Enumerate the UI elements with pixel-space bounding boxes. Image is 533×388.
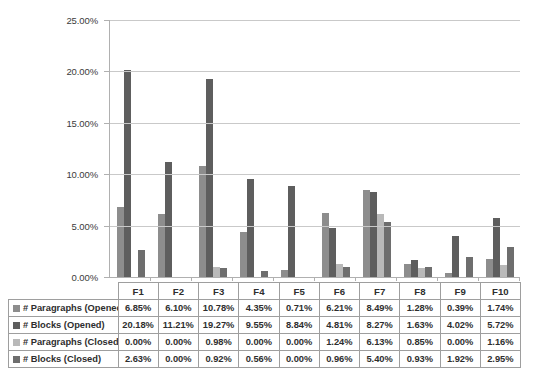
bar-group-f5	[274, 20, 315, 277]
bar-group-f4	[233, 20, 274, 277]
gridline	[110, 226, 520, 227]
bar-group-f1	[110, 20, 151, 277]
bar	[240, 232, 247, 277]
legend-swatch-icon	[13, 356, 20, 363]
table-cell: 0.00%	[158, 334, 198, 351]
chart-container: 0.00%5.00%10.00%15.00%20.00%25.00% F1F2F…	[0, 0, 533, 388]
table-cell: 0.56%	[239, 351, 279, 368]
legend-item-0: # Paragraphs (Opened)	[9, 300, 119, 317]
legend-swatch-icon	[13, 322, 20, 329]
bar	[377, 214, 384, 277]
gridline	[110, 71, 520, 72]
table-cell: 9.55%	[239, 317, 279, 334]
table-cell: 0.96%	[319, 351, 359, 368]
bar-group-f8	[397, 20, 438, 277]
legend-label: # Paragraphs (Opened)	[23, 303, 118, 313]
bar	[288, 186, 295, 277]
y-axis-tick-mark	[104, 71, 110, 72]
y-axis-tick-mark	[104, 123, 110, 124]
bar-group-f7	[356, 20, 397, 277]
bar-group-f10	[479, 20, 520, 277]
bar	[281, 270, 288, 277]
table-cell: 2.63%	[118, 351, 158, 368]
legend-swatch-icon	[13, 339, 20, 346]
bar	[138, 250, 145, 277]
bar	[213, 267, 220, 277]
table-column-header-f2: F2	[158, 283, 198, 300]
table-column-header-f8: F8	[400, 283, 440, 300]
legend-label: # Blocks (Closed)	[23, 354, 101, 364]
bar	[411, 260, 418, 277]
y-axis-tick-label: 25.00%	[66, 15, 98, 26]
table-cell: 19.27%	[199, 317, 239, 334]
table-cell: 0.92%	[199, 351, 239, 368]
bar	[384, 222, 391, 278]
legend-item-2: # Paragraphs (Closed)	[9, 334, 119, 351]
bar-group-f3	[192, 20, 233, 277]
bar	[247, 179, 254, 277]
table-cell: 4.35%	[239, 300, 279, 317]
table-cell: 0.00%	[158, 351, 198, 368]
table-cell: 1.63%	[400, 317, 440, 334]
table-cell: 0.93%	[400, 351, 440, 368]
legend-label: # Paragraphs (Closed)	[23, 337, 118, 347]
table-body: # Paragraphs (Opened)6.85%6.10%10.78%4.3…	[9, 300, 521, 368]
bar	[220, 268, 227, 277]
bar-groups	[110, 20, 520, 277]
table-header: F1F2F3F4F5F6F7F8F9F10	[9, 283, 521, 300]
table-cell: 11.21%	[158, 317, 198, 334]
table-cell: 0.39%	[440, 300, 480, 317]
bar	[165, 162, 172, 277]
table-cell: 6.21%	[319, 300, 359, 317]
bar	[343, 267, 350, 277]
table-cell: 0.00%	[118, 334, 158, 351]
bar	[507, 247, 514, 277]
bar	[425, 267, 432, 277]
y-axis-tick-mark	[104, 226, 110, 227]
legend-item-3: # Blocks (Closed)	[9, 351, 119, 368]
table-cell: 1.16%	[480, 334, 520, 351]
table-cell: 2.95%	[480, 351, 520, 368]
table-cell: 4.81%	[319, 317, 359, 334]
y-axis-tick-label: 20.00%	[66, 66, 98, 77]
table-cell: 0.00%	[279, 334, 319, 351]
bar	[493, 218, 500, 277]
bar	[466, 257, 473, 277]
table-cell: 4.02%	[440, 317, 480, 334]
bar	[199, 166, 206, 277]
y-axis-tick-mark	[104, 20, 110, 21]
bar	[206, 79, 213, 277]
bar-group-f6	[315, 20, 356, 277]
bar	[418, 268, 425, 277]
bar	[363, 190, 370, 277]
y-axis: 0.00%5.00%10.00%15.00%20.00%25.00%	[0, 0, 104, 282]
gridline	[110, 277, 520, 278]
table-cell: 0.00%	[279, 351, 319, 368]
gridline	[110, 174, 520, 175]
gridline	[110, 20, 520, 21]
bar	[500, 265, 507, 277]
y-axis-tick-mark	[104, 277, 110, 278]
table-cell: 1.24%	[319, 334, 359, 351]
table-cell: 10.78%	[199, 300, 239, 317]
y-axis-tick-label: 15.00%	[66, 117, 98, 128]
table-corner-cell	[9, 283, 119, 300]
table-cell: 6.10%	[158, 300, 198, 317]
bar	[117, 207, 124, 277]
table-cell: 8.49%	[360, 300, 400, 317]
table-cell: 8.84%	[279, 317, 319, 334]
y-axis-tick-label: 5.00%	[72, 220, 98, 231]
y-axis-tick-label: 10.00%	[66, 169, 98, 180]
table-column-header-f1: F1	[118, 283, 158, 300]
bar-group-f9	[438, 20, 479, 277]
table-cell: 6.13%	[360, 334, 400, 351]
table-header-row: F1F2F3F4F5F6F7F8F9F10	[9, 283, 521, 300]
bar	[486, 259, 493, 277]
legend-item-1: # Blocks (Opened)	[9, 317, 119, 334]
table-column-header-f6: F6	[319, 283, 359, 300]
bar	[370, 192, 377, 277]
table-cell: 20.18%	[118, 317, 158, 334]
y-axis-line	[109, 20, 110, 278]
table-cell: 5.40%	[360, 351, 400, 368]
table-column-header-f4: F4	[239, 283, 279, 300]
